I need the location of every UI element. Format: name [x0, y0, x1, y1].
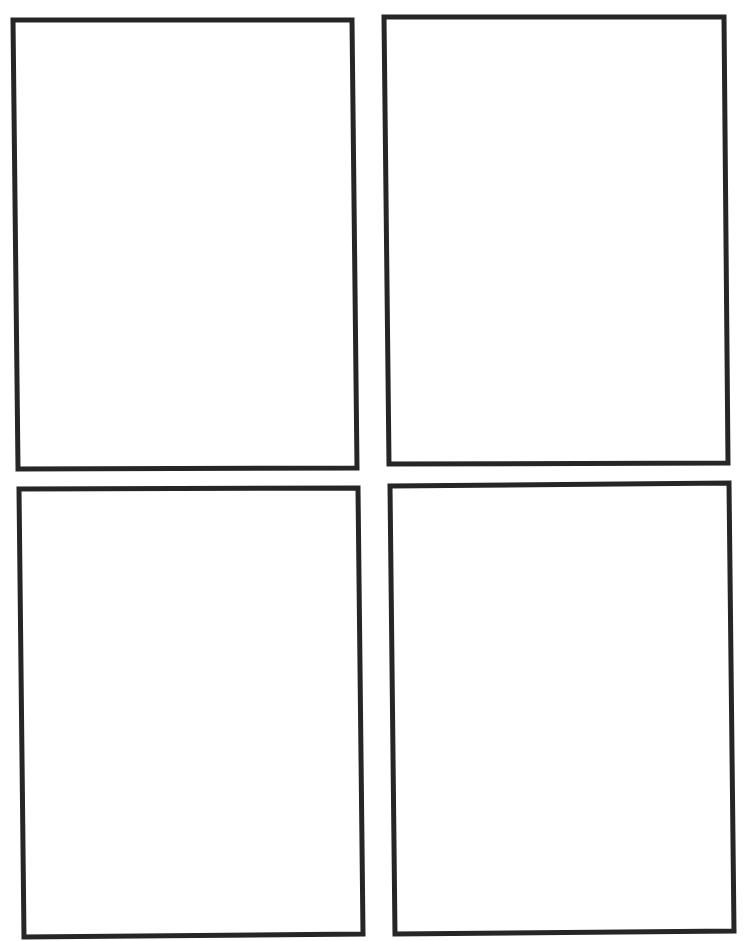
panel-top-right	[384, 17, 728, 464]
comic-page	[0, 0, 752, 941]
panel-top-left	[13, 20, 357, 469]
panel-bottom-left	[19, 488, 363, 937]
panel-bottom-right	[390, 483, 734, 934]
